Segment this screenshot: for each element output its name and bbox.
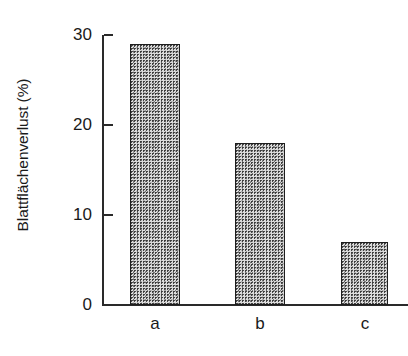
x-axis-tick-label-c: c	[335, 315, 395, 332]
y-axis-tick-label-slot: 20	[0, 116, 102, 117]
bar-chart-figure: Blattflächenverlust (%) 3020100 abc	[0, 0, 408, 356]
y-axis-tick	[104, 124, 113, 126]
y-axis-tick	[104, 34, 113, 36]
y-axis-tick	[104, 214, 113, 216]
y-axis-tick-label: 0	[0, 296, 102, 313]
y-axis-tick-label-slot: 10	[0, 206, 102, 207]
y-axis-tick-label: 20	[0, 116, 102, 133]
y-axis-tick-label-slot: 30	[0, 26, 102, 27]
y-axis-tick-label: 10	[0, 206, 102, 223]
bar-c	[341, 242, 388, 305]
y-axis-title: Blattflächenverlust (%)	[0, 0, 46, 310]
x-axis-tick-label-b: b	[230, 315, 290, 332]
y-axis-line	[102, 35, 104, 306]
bar-b	[235, 143, 285, 305]
y-axis-tick-label-slot: 0	[0, 296, 102, 297]
bar-a	[130, 44, 180, 305]
x-axis-tick-label-a: a	[125, 315, 185, 332]
y-axis-tick-label: 30	[0, 26, 102, 43]
